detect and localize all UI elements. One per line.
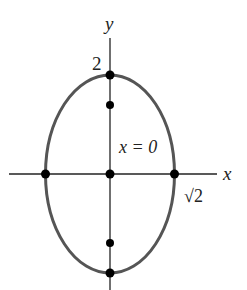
x-intercept-label: √2 [184, 186, 203, 206]
right-vertex-point [170, 170, 179, 179]
ellipse-diagram: y x 2 √2 x = 0 [0, 0, 247, 290]
y-axis-label: y [103, 13, 114, 34]
upper-focus-point [106, 101, 114, 109]
bottom-vertex-point [106, 269, 115, 278]
left-vertex-point [41, 170, 50, 179]
center-point [106, 170, 115, 179]
lower-focus-point [106, 239, 114, 247]
line-label: x = 0 [118, 137, 157, 157]
x-axis-label: x [222, 163, 232, 184]
top-vertex-point [106, 71, 115, 80]
y-intercept-label: 2 [92, 53, 102, 74]
